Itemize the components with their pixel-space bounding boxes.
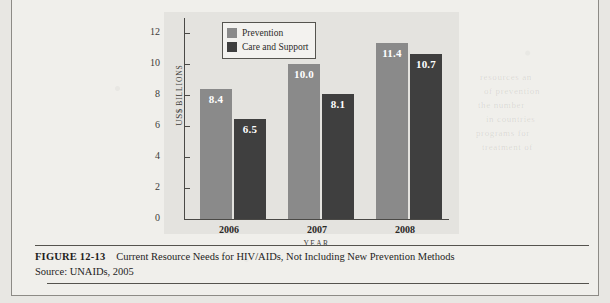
bar-prevention-2008: 11.4 bbox=[376, 43, 408, 219]
ghost-text: treatment of bbox=[482, 142, 533, 152]
y-axis-tick: 0 bbox=[164, 219, 190, 220]
y-axis-tick-label: 2 bbox=[155, 181, 160, 192]
ghost-text: the number bbox=[478, 100, 525, 110]
ghost-text: programs for bbox=[476, 128, 530, 138]
y-axis-tick-label: 10 bbox=[150, 57, 160, 68]
bar-care-and-support-2006: 6.5 bbox=[234, 119, 266, 220]
chart-legend: Prevention Care and Support bbox=[222, 22, 316, 59]
y-axis-tick-label: 12 bbox=[150, 26, 160, 37]
figure-caption: FIGURE 12-13Current Resource Needs for H… bbox=[35, 249, 595, 279]
y-axis-title: US$ BILLIONS bbox=[174, 40, 184, 150]
figure-title: Current Resource Needs for HIV/AIDs, Not… bbox=[116, 251, 454, 262]
ghost-text: in countries bbox=[486, 114, 535, 124]
figure-caption-line: FIGURE 12-13Current Resource Needs for H… bbox=[35, 249, 595, 264]
plot-area: 024681012 US$ BILLIONS 8.46.510.08.111.4… bbox=[164, 12, 459, 234]
legend-item-care-and-support: Care and Support bbox=[227, 40, 309, 54]
chart-panel: 024681012 US$ BILLIONS 8.46.510.08.111.4… bbox=[164, 12, 459, 234]
caption-divider-top bbox=[35, 245, 589, 246]
legend-item-prevention: Prevention bbox=[227, 26, 309, 40]
ghost-text: resources an bbox=[480, 72, 532, 82]
y-axis-tick-label: 8 bbox=[155, 88, 160, 99]
bar-care-and-support-2007: 8.1 bbox=[322, 94, 354, 219]
figure-source: Source: UNAIDs, 2005 bbox=[35, 264, 595, 279]
ghost-text: of prevention bbox=[484, 86, 540, 96]
y-axis-title-main: US$ bbox=[174, 108, 184, 125]
bar-prevention-2006: 8.4 bbox=[200, 89, 232, 219]
x-axis-tick-label-2007: 2007 bbox=[273, 224, 361, 235]
x-axis-line bbox=[184, 219, 449, 220]
bar-prevention-2007: 10.0 bbox=[288, 64, 320, 219]
bar-value-label: 11.4 bbox=[376, 47, 408, 59]
bar-value-label: 10.7 bbox=[410, 58, 442, 70]
figure-number: FIGURE 12-13 bbox=[35, 251, 105, 262]
legend-swatch-icon bbox=[227, 42, 237, 52]
x-axis-tick-label-2008: 2008 bbox=[361, 224, 449, 235]
x-axis-tick-label-2006: 2006 bbox=[185, 224, 273, 235]
scanned-page: resources an of prevention the number in… bbox=[11, 0, 599, 296]
y-axis-title-unit: BILLIONS bbox=[175, 64, 184, 105]
y-axis-tick-label: 4 bbox=[155, 150, 160, 161]
bar-value-label: 10.0 bbox=[288, 68, 320, 80]
y-axis-tick-label: 6 bbox=[155, 119, 160, 130]
bar-care-and-support-2008: 10.7 bbox=[410, 54, 442, 219]
x-axis-title: YEAR bbox=[184, 239, 449, 248]
legend-label: Prevention bbox=[242, 28, 283, 38]
legend-label: Care and Support bbox=[242, 42, 309, 52]
caption-divider-bottom bbox=[47, 283, 589, 284]
bar-value-label: 8.1 bbox=[322, 98, 354, 110]
y-axis-tick-label: 0 bbox=[155, 212, 160, 223]
legend-swatch-icon bbox=[227, 28, 237, 38]
bar-value-label: 6.5 bbox=[234, 123, 266, 135]
bar-value-label: 8.4 bbox=[200, 93, 232, 105]
